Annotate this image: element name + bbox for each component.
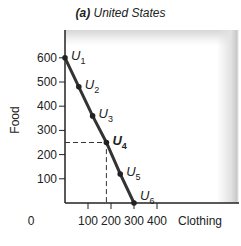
x-tick-label: 100 xyxy=(78,214,98,228)
data-point xyxy=(117,171,123,177)
x-tick-label: 200 xyxy=(101,214,121,228)
point-label: U3 xyxy=(99,106,113,124)
y-tick-label: 400 xyxy=(37,99,57,113)
data-point xyxy=(76,84,82,90)
dashed-guide-u4 xyxy=(65,143,106,204)
y-tick-label: 200 xyxy=(37,148,57,162)
point-label-subscript: 2 xyxy=(94,85,99,95)
point-label: U1 xyxy=(71,48,85,66)
data-point xyxy=(104,140,110,146)
y-tick-label: 100 xyxy=(37,172,57,186)
point-label-subscript: 4 xyxy=(122,141,127,151)
x-axis-label: Clothing xyxy=(178,214,222,228)
point-label-subscript: 5 xyxy=(136,172,141,182)
chart-canvas: 1002003004005006001002003004000ClothingF… xyxy=(0,0,241,246)
data-point xyxy=(62,55,68,61)
y-tick-label: 300 xyxy=(37,123,57,137)
point-label: U5 xyxy=(126,164,140,182)
data-point xyxy=(131,200,137,206)
point-label-subscript: 6 xyxy=(149,196,154,206)
x-tick-label: 400 xyxy=(147,214,167,228)
point-label-subscript: 3 xyxy=(108,114,113,124)
budget-line xyxy=(65,58,134,203)
data-point xyxy=(90,113,96,119)
y-tick-label: 500 xyxy=(37,75,57,89)
point-label-subscript: 1 xyxy=(80,56,85,66)
point-label: U4 xyxy=(112,133,126,151)
y-tick-label: 600 xyxy=(37,51,57,65)
point-label: U2 xyxy=(85,77,99,95)
x-tick-label: 300 xyxy=(124,214,144,228)
x-origin-label: 0 xyxy=(28,214,35,228)
y-axis-label: Food xyxy=(8,106,22,133)
